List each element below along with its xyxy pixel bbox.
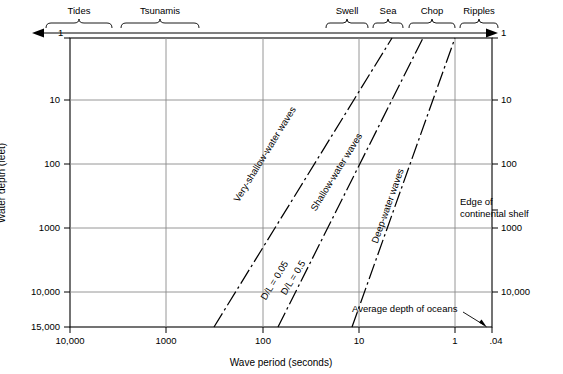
x-tick-10: 10 (354, 336, 365, 347)
bottom-axis-ticks (70, 327, 492, 333)
y-tick-left-10: 10 (0, 95, 60, 106)
left-axis-ticks (64, 38, 70, 327)
chart-canvas (0, 0, 563, 374)
right-arrow-icon (486, 28, 498, 37)
shelf-line-2: continental shelf (460, 208, 529, 220)
x-tick-004: .04 (489, 336, 502, 347)
avg-depth-leader (463, 312, 487, 328)
y-tick-left-100: 100 (0, 159, 60, 170)
top-right-corner-value: 1 (501, 28, 506, 39)
x-tick-1: 1 (452, 336, 457, 347)
y-tick-left-10000: 10,000 (0, 287, 60, 298)
arrowhead-icon (479, 320, 487, 328)
x-tick-10000: 10,000 (55, 336, 84, 347)
right-axis-ticks (492, 38, 498, 292)
band-label-ripples: Ripples (463, 6, 495, 17)
x-tick-100: 100 (255, 336, 271, 347)
band-label-swell: Swell (336, 6, 359, 17)
y-tick-right-10: 10 (501, 95, 512, 106)
y-axis-title: Water depth (feet) (0, 143, 8, 223)
y-tick-right-100: 100 (501, 159, 517, 170)
x-tick-1000: 1000 (155, 336, 176, 347)
y-tick-left-15000: 15,000 (0, 322, 60, 333)
top-left-corner-value: 1 (58, 28, 63, 39)
band-label-sea: Sea (380, 6, 397, 17)
y-tick-right-1000: 1000 (501, 223, 522, 234)
curve-deep-water-boundary (352, 38, 455, 327)
annotation-edge-of-continental-shelf: Edge of continental shelf (460, 196, 529, 220)
y-tick-left-1000: 1000 (0, 223, 60, 234)
band-brackets (46, 19, 498, 28)
vertical-gridlines (166, 38, 455, 327)
band-label-tides: Tides (68, 6, 91, 17)
band-label-chop: Chop (421, 6, 444, 17)
annotation-average-depth-of-oceans: Average depth of oceans (352, 303, 457, 315)
left-arrow-icon (32, 28, 44, 37)
band-label-tsunamis: Tsunamis (140, 6, 180, 17)
wave-classification-chart: Tides Tsunamis Swell Sea Chop Ripples 1 … (0, 0, 563, 374)
y-tick-right-10000: 10,000 (501, 287, 530, 298)
x-axis-title: Wave period (seconds) (230, 357, 332, 369)
shelf-line-1: Edge of (460, 196, 529, 208)
top-axis-arrow-rule (32, 28, 498, 37)
